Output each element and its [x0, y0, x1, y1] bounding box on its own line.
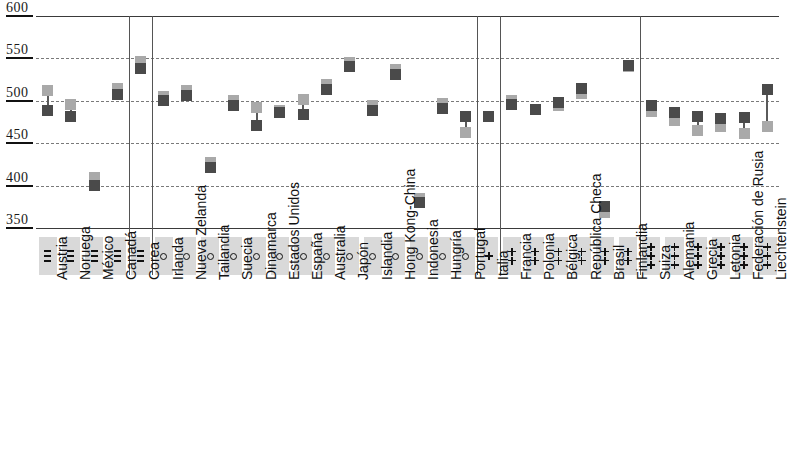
- category-labels: AustriaNoruegaMéxicoCanadáCoreaIrlandaNu…: [36, 280, 779, 470]
- marker-dark: [530, 104, 541, 115]
- marker-dark: [42, 105, 53, 116]
- marker-dark: [506, 99, 517, 110]
- minus-icon: [44, 260, 51, 262]
- marker-dark: [367, 105, 378, 116]
- marker-dark: [181, 90, 192, 101]
- marker-dark: [112, 89, 123, 100]
- y-tick-label-550: 550: [6, 42, 29, 58]
- marker-dark: [228, 100, 239, 111]
- marker-light: [739, 128, 750, 139]
- data-point-b-lgica: [547, 16, 570, 228]
- marker-dark: [437, 103, 448, 114]
- category-label-jap-n: Japón: [355, 242, 371, 280]
- y-tick-label-450: 450: [6, 127, 29, 143]
- marker-dark: [692, 111, 703, 122]
- marker-dark: [623, 60, 634, 71]
- data-point-australia: [315, 16, 338, 228]
- data-point-hungr-a: [431, 16, 454, 228]
- marker-dark: [715, 113, 726, 124]
- data-point-suecia: [222, 16, 245, 228]
- category-label-hungr-a: Hungría: [448, 230, 464, 280]
- marker-light: [692, 125, 703, 136]
- category-label-polonia: Polonia: [541, 233, 557, 280]
- category-label-liechtenstein: Liechtenstein: [773, 197, 789, 280]
- marker-dark: [460, 111, 471, 122]
- category-label-noruega: Noruega: [77, 226, 93, 280]
- marker-dark: [344, 61, 355, 72]
- category-label-espa-a: España: [309, 233, 325, 280]
- marker-dark: [158, 95, 169, 106]
- marker-light: [298, 94, 309, 105]
- marker-dark: [483, 111, 494, 122]
- y-tick-rule-400: [6, 185, 33, 187]
- category-label-rep-blica-checa: República Checa: [588, 173, 604, 280]
- data-point-suiza: [640, 16, 663, 228]
- category-label-suecia: Suecia: [239, 237, 255, 280]
- data-point-jap-n: [338, 16, 361, 228]
- marker-dark: [390, 69, 401, 80]
- y-tick-rule-350: [6, 227, 33, 229]
- category-label-hong-kong-china: Hong Kong-China: [402, 169, 418, 280]
- category-label-indonesia: Indonesia: [425, 219, 441, 280]
- y-tick-rule-450: [6, 142, 33, 144]
- marker-dark: [205, 162, 216, 173]
- category-label-dinamarca: Dinamarca: [263, 212, 279, 280]
- category-label-italia: Italia: [495, 250, 511, 280]
- data-point-corea: [129, 16, 152, 228]
- marker-light: [251, 102, 262, 113]
- marker-light: [42, 85, 53, 96]
- category-label-canad-: Canadá: [123, 231, 139, 280]
- marker-dark: [739, 112, 750, 123]
- marker-dark: [669, 107, 680, 118]
- marker-dark: [65, 111, 76, 122]
- data-point-grecia: [686, 16, 709, 228]
- category-label-federaci-n-de-rusia: Federación de Rusia: [750, 151, 766, 280]
- data-point-letonia: [709, 16, 732, 228]
- data-point-italia: [477, 16, 500, 228]
- category-label-estados-unidos: Estados Unidos: [286, 182, 302, 280]
- category-label-tailandia: Tailandia: [216, 225, 232, 280]
- marker-dark: [321, 84, 332, 95]
- category-label-alemania: Alemania: [681, 222, 697, 280]
- marker-dark: [89, 180, 100, 191]
- y-tick-label-600: 600: [6, 0, 29, 16]
- category-label-francia: Francia: [518, 233, 534, 280]
- data-point-francia: [500, 16, 523, 228]
- category-label-b-lgica: Bélgica: [564, 234, 580, 280]
- y-tick-label-350: 350: [6, 212, 29, 228]
- category-label-m-xico: México: [100, 236, 116, 280]
- marker-dark: [298, 109, 309, 120]
- data-point-m-xico: [82, 16, 105, 228]
- category-label-letonia: Letonia: [727, 234, 743, 280]
- data-point-finlandia: [616, 16, 639, 228]
- data-point-polonia: [524, 16, 547, 228]
- data-point-irlanda: [152, 16, 175, 228]
- data-point-islandia: [361, 16, 384, 228]
- marker-dark: [251, 120, 262, 131]
- marker-dark: [135, 63, 146, 74]
- data-point-canad-: [106, 16, 129, 228]
- minus-icon: [44, 250, 51, 252]
- category-label-australia: Australia: [332, 226, 348, 280]
- category-label-corea: Corea: [146, 242, 162, 280]
- marker-dark: [274, 107, 285, 118]
- data-point-noruega: [59, 16, 82, 228]
- marker-light: [460, 127, 471, 138]
- y-tick-label-500: 500: [6, 85, 29, 101]
- marker-dark: [646, 100, 657, 111]
- marker-dark: [762, 84, 773, 95]
- category-label-irlanda: Irlanda: [170, 237, 186, 280]
- category-label-portugal: Portugal: [472, 228, 488, 280]
- data-point-alemania: [663, 16, 686, 228]
- data-point-austria: [36, 16, 59, 228]
- category-label-suiza: Suiza: [657, 245, 673, 280]
- category-label-nueva-zelanda: Nueva Zelanda: [193, 185, 209, 280]
- marker-dark: [553, 97, 564, 108]
- category-label-austria: Austria: [54, 236, 70, 280]
- y-tick-rule-550: [6, 57, 33, 59]
- category-label-islandia: Islandia: [379, 232, 395, 280]
- y-tick-rule-600: [6, 15, 33, 17]
- category-label-brasil: Brasil: [611, 245, 627, 280]
- category-label-finlandia: Finlandia: [634, 223, 650, 280]
